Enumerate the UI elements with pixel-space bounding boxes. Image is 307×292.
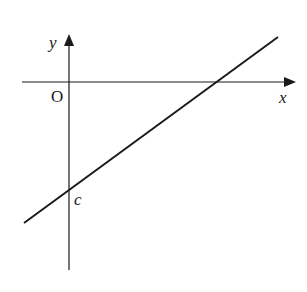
x-axis-label: x — [278, 88, 287, 107]
y-intercept-label: c — [74, 190, 82, 209]
y-axis-label: y — [47, 33, 57, 52]
plotted-line — [24, 37, 278, 223]
origin-label: O — [51, 87, 63, 106]
graph-canvas: y O x c — [0, 0, 307, 292]
y-axis-arrow-icon — [64, 34, 74, 46]
x-axis-arrow-icon — [284, 77, 296, 87]
